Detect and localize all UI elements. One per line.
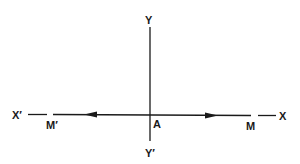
label-x-right: X bbox=[279, 110, 287, 122]
label-x-left: X′ bbox=[12, 109, 22, 121]
label-point-m: M bbox=[246, 120, 255, 132]
label-origin-a: A bbox=[153, 118, 161, 130]
label-point-m-prime: M′ bbox=[46, 119, 58, 131]
axes-diagram: Y Y′ X′ X A M′ M bbox=[0, 0, 300, 164]
label-y-bottom: Y′ bbox=[145, 147, 155, 159]
label-y-top: Y bbox=[145, 14, 153, 26]
arrow-right-icon bbox=[205, 113, 218, 119]
arrow-left-icon bbox=[84, 112, 97, 118]
x-axis-main-line bbox=[53, 115, 251, 116]
